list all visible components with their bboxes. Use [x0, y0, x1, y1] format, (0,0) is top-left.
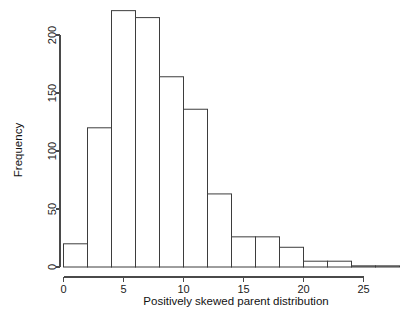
y-tick-label: 100 — [46, 142, 58, 160]
histogram-bar — [64, 244, 88, 267]
histogram-bar — [232, 237, 256, 267]
histogram-bar — [88, 128, 112, 267]
y-axis-title: Frequency — [12, 123, 24, 178]
histogram-bar — [184, 109, 208, 267]
histogram-figure: 050100150200 0510152025 Positively skewe… — [0, 0, 409, 322]
histogram-bar — [376, 266, 400, 267]
histogram-bar — [160, 77, 184, 267]
histogram-bars — [64, 11, 400, 267]
y-tick-label: 0 — [46, 264, 58, 270]
x-axis — [64, 277, 364, 282]
histogram-bar — [256, 237, 280, 267]
x-tick-label: 25 — [357, 283, 369, 295]
x-tick-label: 20 — [297, 283, 309, 295]
histogram-bar — [328, 261, 352, 267]
x-tick-label: 15 — [237, 283, 249, 295]
histogram-bar — [136, 18, 160, 267]
x-tick-label: 0 — [60, 283, 66, 295]
histogram-bar — [112, 11, 136, 267]
x-axis-title: Positively skewed parent distribution — [143, 295, 328, 307]
y-tick-label: 200 — [46, 26, 58, 44]
y-tick-label: 50 — [46, 203, 58, 215]
x-tick-label: 10 — [177, 283, 189, 295]
y-tick-labels: 050100150200 — [46, 26, 58, 270]
histogram-bar — [304, 261, 328, 267]
y-tick-label: 150 — [46, 84, 58, 102]
x-tick-label: 5 — [120, 283, 126, 295]
histogram-bar — [208, 194, 232, 267]
histogram-svg: 050100150200 0510152025 Positively skewe… — [0, 0, 409, 322]
x-tick-labels: 0510152025 — [60, 283, 369, 295]
histogram-bar — [280, 247, 304, 267]
histogram-bar — [352, 266, 376, 267]
plot-canvas: 050100150200 0510152025 Positively skewe… — [0, 0, 409, 322]
